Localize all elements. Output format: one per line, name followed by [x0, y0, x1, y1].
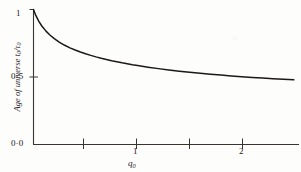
x-axis-title: q0	[128, 158, 136, 168]
data-series-curve	[34, 10, 294, 80]
x-axis-title-subscript: 0	[133, 162, 136, 169]
y-axis-title-numerator: t	[12, 54, 22, 56]
y-axis-tick-label-0point0: 0·0	[11, 138, 23, 148]
y-axis-title-denominator-subscript: 0	[16, 43, 22, 46]
y-axis-title-text: Age of universe	[12, 56, 22, 111]
figure-container: 1 0·5 0·0 1 2 Age of universe t0/τ0 q0	[0, 0, 301, 172]
x-axis-title-symbol: q	[128, 158, 133, 168]
x-axis-tick-label-1: 1	[133, 146, 138, 156]
plot-area	[0, 0, 301, 172]
y-axis-title-denominator: τ	[12, 46, 22, 49]
y-axis-title-numerator-subscript: 0	[16, 51, 22, 54]
x-axis-tick-label-2: 2	[239, 146, 244, 156]
y-axis-title: Age of universe t0/τ0	[12, 17, 22, 137]
